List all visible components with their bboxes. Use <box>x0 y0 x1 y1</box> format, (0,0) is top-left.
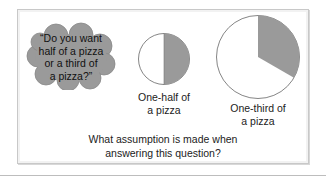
question-line: What assumption is made when <box>17 133 309 147</box>
label-line: a pizza <box>128 104 200 117</box>
half-pizza-icon <box>137 32 191 86</box>
divider <box>0 175 326 176</box>
third-pizza-icon <box>215 14 301 100</box>
speech-text: “Do you want half of a pizza or a third … <box>26 32 116 82</box>
half-pizza-label: One-half of a pizza <box>128 91 200 117</box>
speech-line: or a third of <box>26 57 116 70</box>
label-line: One-half of <box>128 91 200 104</box>
speech-line: half of a pizza <box>26 45 116 58</box>
label-line: One-third of <box>218 102 298 115</box>
third-pizza-label: One-third of a pizza <box>218 102 298 128</box>
question-text: What assumption is made when answering t… <box>17 133 309 160</box>
label-line: a pizza <box>218 115 298 128</box>
speech-line: “Do you want <box>26 32 116 45</box>
speech-line: a pizza?” <box>26 70 116 83</box>
question-line: answering this question? <box>17 147 309 161</box>
speech-cloud: “Do you want half of a pizza or a third … <box>26 22 116 90</box>
